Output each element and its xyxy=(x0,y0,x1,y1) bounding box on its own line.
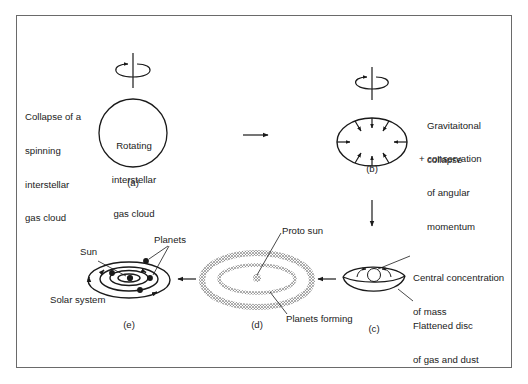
text-line: Central concentration xyxy=(413,272,504,283)
text-line: Collapse of a xyxy=(25,111,81,122)
stage-a-caption: (a) xyxy=(127,177,139,188)
text-line: momentum xyxy=(419,221,482,232)
stage-e-label-planets: Planets xyxy=(154,234,186,245)
stage-d-dust-rings xyxy=(202,233,312,314)
text-line: Rotating xyxy=(108,140,160,151)
stage-a-side-label: Collapse of a spinning interstellar gas … xyxy=(25,89,81,235)
stage-c-label-bottom: Flattened disc of gas and dust xyxy=(413,298,479,376)
stage-b-rotation-axis-icon xyxy=(356,67,389,100)
text-line: of angular xyxy=(419,187,482,198)
text-line: gas cloud xyxy=(108,208,160,219)
stage-d-caption: (d) xyxy=(251,319,263,330)
text-line: of gas and dust xyxy=(413,354,479,365)
stage-a-rotation-axis-icon xyxy=(116,53,150,88)
stage-e-solar-system xyxy=(88,246,170,298)
text-line: spinning xyxy=(25,145,81,156)
stage-d-label-bottom: Planets forming xyxy=(286,313,353,324)
stage-d-label-top: Proto sun xyxy=(282,225,323,236)
stage-c-caption: (c) xyxy=(368,323,379,334)
text-line: Gravitaitonal xyxy=(427,120,481,131)
stage-e-label-sun: Sun xyxy=(80,246,97,257)
stage-a-inner-label: Rotating interstellar gas cloud xyxy=(108,118,160,230)
text-line: interstellar xyxy=(25,179,81,190)
stage-b-side-label-2: + conservation of angular momentum xyxy=(419,131,482,243)
text-line: gas cloud xyxy=(25,212,81,223)
text-line: + conservation xyxy=(419,153,482,164)
stage-b-collapsing-cloud xyxy=(337,118,407,166)
stage-e-caption: (e) xyxy=(123,319,135,330)
stage-b-caption: (b) xyxy=(366,163,378,174)
text-line: Flattened disc xyxy=(413,320,479,331)
stage-c-flattened-disc xyxy=(343,256,413,301)
stage-e-label-system: Solar system xyxy=(50,294,105,305)
